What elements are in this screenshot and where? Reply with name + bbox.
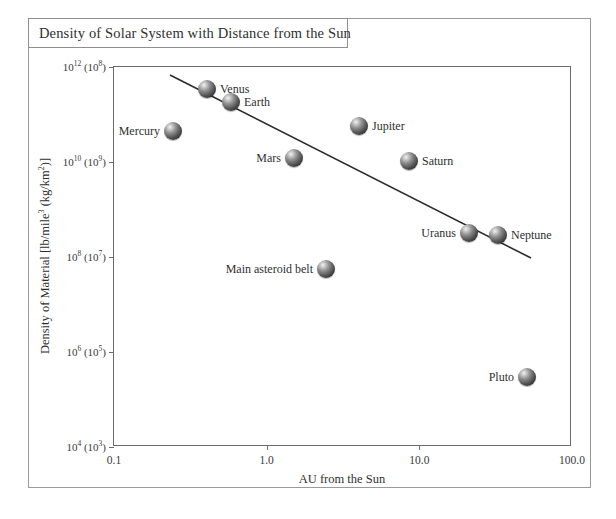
x-tick-mark bbox=[267, 445, 268, 450]
y-tick-mark bbox=[109, 352, 114, 353]
data-point-neptune[interactable]: Neptune bbox=[489, 226, 507, 244]
x-tick-label: 100.0 bbox=[559, 454, 585, 466]
data-point-label: Pluto bbox=[489, 370, 514, 385]
x-axis-title: AU from the Sun bbox=[113, 472, 571, 487]
x-tick-label: 10.0 bbox=[409, 454, 429, 466]
planet-sphere-icon bbox=[400, 152, 418, 170]
y-tick-mark bbox=[109, 67, 114, 68]
y-axis-title: Density of Material [lb/mile3 (kg/km2)] bbox=[36, 66, 54, 446]
y-tick-label: 108 (107) bbox=[66, 252, 106, 263]
x-axis-title-text: AU from the Sun bbox=[299, 472, 385, 486]
planet-sphere-icon bbox=[222, 93, 240, 111]
y-tick-label: 1010 (109) bbox=[63, 157, 106, 168]
data-point-label: Neptune bbox=[511, 228, 552, 243]
data-point-earth[interactable]: Earth bbox=[222, 93, 240, 111]
planet-sphere-icon bbox=[285, 149, 303, 167]
data-point-uranus[interactable]: Uranus bbox=[460, 224, 478, 242]
y-tick-mark bbox=[109, 257, 114, 258]
y-tick-label: 1012 (108) bbox=[63, 62, 106, 73]
y-tick-mark bbox=[109, 162, 114, 163]
planet-sphere-icon bbox=[489, 226, 507, 244]
data-point-label: Earth bbox=[244, 95, 270, 110]
data-point-jupiter[interactable]: Jupiter bbox=[350, 117, 368, 135]
data-point-label: Uranus bbox=[421, 226, 456, 241]
planet-sphere-icon bbox=[317, 260, 335, 278]
x-tick-label: 0.1 bbox=[107, 454, 121, 466]
planet-sphere-icon bbox=[350, 117, 368, 135]
data-point-venus[interactable]: Venus bbox=[198, 80, 216, 98]
planet-sphere-icon bbox=[198, 80, 216, 98]
y-tick-label: 106 (105) bbox=[66, 347, 106, 358]
planet-sphere-icon bbox=[518, 368, 536, 386]
plot-area: 1012 (108)1010 (109)108 (107)106 (105)10… bbox=[113, 66, 571, 446]
data-point-pluto[interactable]: Pluto bbox=[518, 368, 536, 386]
page-title: Density of Solar System with Distance fr… bbox=[39, 25, 351, 42]
x-tick-label: 1.0 bbox=[259, 454, 273, 466]
trend-line bbox=[114, 67, 572, 447]
data-point-mercury[interactable]: Mercury bbox=[164, 122, 182, 140]
y-tick-label: 104 (103) bbox=[66, 442, 106, 453]
data-point-main-asteroid-belt[interactable]: Main asteroid belt bbox=[317, 260, 335, 278]
data-point-label: Main asteroid belt bbox=[226, 262, 313, 277]
data-point-saturn[interactable]: Saturn bbox=[400, 152, 418, 170]
chart-title-box: Density of Solar System with Distance fr… bbox=[28, 18, 348, 48]
data-point-mars[interactable]: Mars bbox=[285, 149, 303, 167]
planet-sphere-icon bbox=[164, 122, 182, 140]
planet-sphere-icon bbox=[460, 224, 478, 242]
y-tick-mark bbox=[109, 447, 114, 448]
data-point-label: Saturn bbox=[422, 154, 453, 169]
data-point-label: Jupiter bbox=[372, 119, 405, 134]
y-axis-title-text: Density of Material [lb/mile3 (kg/km2)] bbox=[38, 158, 53, 354]
data-point-label: Mars bbox=[256, 151, 281, 166]
data-point-label: Mercury bbox=[119, 124, 160, 139]
x-tick-mark bbox=[419, 445, 420, 450]
